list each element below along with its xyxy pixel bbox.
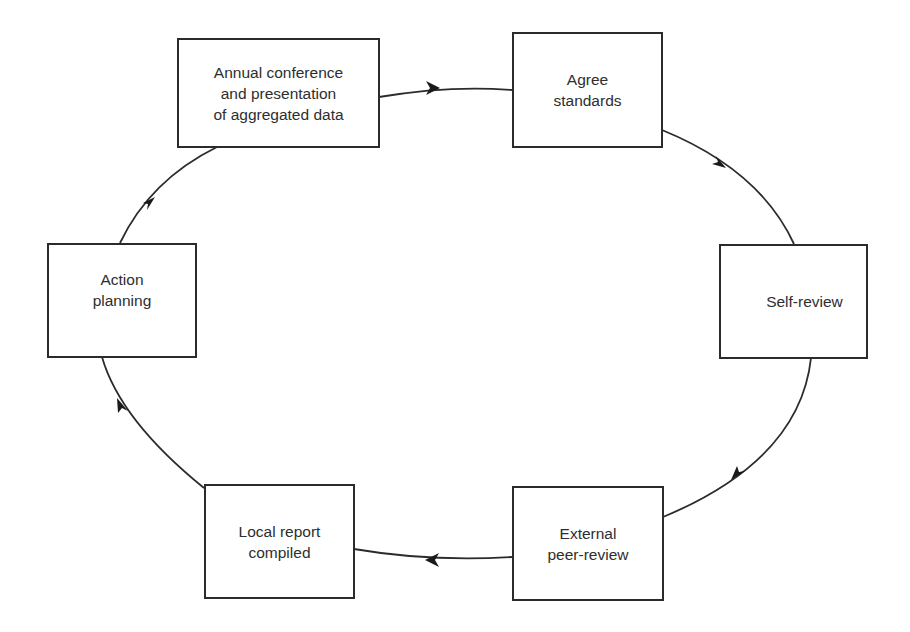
node-label: Agree standards — [553, 69, 621, 111]
node-label: Self-review — [744, 291, 843, 312]
node-label: Annual conference and presentation of ag… — [213, 62, 343, 125]
node-label: External peer-review — [548, 523, 629, 565]
node-action-planning: Action planning — [47, 243, 197, 358]
edge-self-to-external — [663, 358, 811, 517]
arrow-right-icon — [426, 81, 440, 95]
edge-action-to-annual — [120, 147, 217, 243]
arrow-left-icon — [425, 553, 439, 567]
edge-annual-to-agree — [379, 89, 512, 97]
node-label: Action planning — [93, 269, 152, 311]
node-local-report: Local report compiled — [204, 484, 355, 599]
edge-local-to-action — [102, 357, 204, 488]
node-label: Local report compiled — [239, 521, 321, 563]
node-agree-standards: Agree standards — [512, 32, 663, 148]
edge-agree-to-self — [662, 130, 794, 244]
node-self-review: Self-review — [719, 244, 868, 359]
node-annual-conference: Annual conference and presentation of ag… — [177, 38, 380, 148]
node-external-peer-review: External peer-review — [512, 486, 664, 601]
